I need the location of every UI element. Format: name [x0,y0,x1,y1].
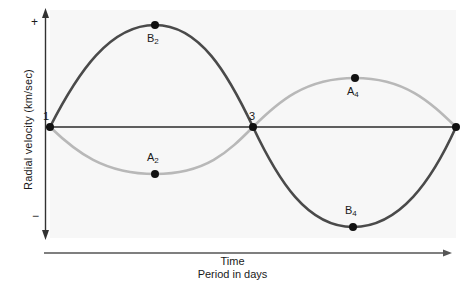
data-point-origin[interactable] [46,123,54,131]
point-label-b4-subscript: 4 [352,209,356,218]
x-axis-label-secondary: Period in days [0,269,465,280]
y-axis-positive-tick-label: + [31,16,38,28]
data-point-b2[interactable] [151,21,159,29]
crossing-label-three: 3 [249,111,255,122]
point-label-b2: B2 [147,33,159,44]
radial-velocity-chart: Radial velocity (km/sec) + − 1 3 B2 A2 A… [0,0,465,284]
y-axis-label: Radial velocity (km/sec) [23,40,34,220]
y-axis-top-arrowhead [42,8,49,18]
y-axis-bottom-arrowhead [42,230,49,240]
data-point-a4[interactable] [351,74,359,82]
data-point-end[interactable] [452,123,460,131]
point-label-a2-subscript: 2 [154,156,158,165]
point-label-a4: A4 [347,86,359,97]
point-label-b2-subscript: 2 [154,37,158,46]
point-label-b4: B4 [345,205,357,216]
x-axis-label-primary: Time [0,256,465,267]
y-axis-negative-tick-label: − [32,210,39,222]
data-point-b4[interactable] [349,223,357,231]
crossing-label-one: 1 [43,111,49,122]
data-point-a2[interactable] [151,170,159,178]
chart-canvas [0,0,465,284]
point-label-a2: A2 [147,152,159,163]
data-point-crossing-three[interactable] [249,123,257,131]
point-label-a4-subscript: 4 [354,90,358,99]
